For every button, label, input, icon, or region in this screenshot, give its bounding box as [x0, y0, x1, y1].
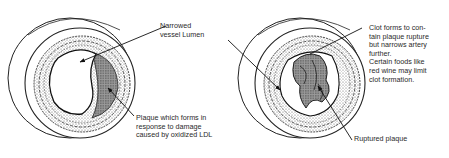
label-narrowed-lumen: Narrowed vessel Lumen	[160, 22, 204, 39]
label-plaque-ldl: Plaque which forms in response to damage…	[136, 114, 212, 140]
label-ruptured-plaque: Ruptured plaque	[354, 135, 407, 144]
label-clot-formation: Clot forms to con- tain plaque rupture b…	[369, 24, 429, 84]
right-artery	[228, 18, 365, 140]
